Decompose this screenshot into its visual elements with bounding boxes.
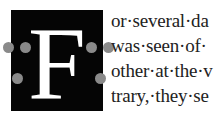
text-line: or·several·da xyxy=(111,8,220,33)
text-line: other·at·the·v xyxy=(111,58,220,83)
resize-handle-right-inner[interactable] xyxy=(86,42,97,53)
resize-handle-right-bottom[interactable] xyxy=(95,73,106,84)
resize-handle-left-bottom[interactable] xyxy=(12,73,23,84)
text-line: trary,·they·se xyxy=(111,83,220,108)
body-text[interactable]: or·several·da was·seen·of· other·at·the·… xyxy=(111,8,220,108)
resize-handle-left-inner[interactable] xyxy=(20,42,31,53)
text-line: was·seen·of· xyxy=(111,33,220,58)
drop-cap-letter: F xyxy=(11,10,103,111)
drop-cap-frame[interactable]: F xyxy=(11,10,103,111)
resize-handle-left-outer[interactable] xyxy=(3,42,14,53)
